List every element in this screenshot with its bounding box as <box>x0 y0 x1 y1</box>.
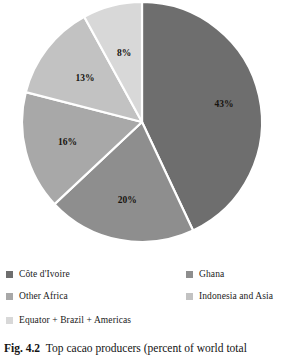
pie-slice-data-label: 13% <box>76 73 95 83</box>
legend-label-ghana: Ghana <box>199 269 224 280</box>
legend-swatch-indonesia-and-asia <box>186 293 193 300</box>
pie-slice-data-label: 43% <box>215 99 234 109</box>
figure-number: Fig. 4.2 <box>4 342 40 354</box>
legend-swatch-ghana <box>186 271 193 278</box>
pie-chart-figure: 43%20%16%13%8% <box>0 0 283 258</box>
legend-row: Côte d'Ivoire Ghana <box>0 264 283 284</box>
legend-swatch-equator-brazil-americas <box>6 317 13 324</box>
legend-label-equator-brazil-americas: Equator + Brazil + Americas <box>19 315 131 326</box>
legend-label-cote-divoire: Côte d'Ivoire <box>19 269 70 280</box>
legend-item-ghana[interactable]: Ghana <box>186 264 224 284</box>
legend-item-indonesia-and-asia[interactable]: Indonesia and Asia <box>186 286 273 306</box>
pie-chart-canvas: 43%20%16%13%8% <box>0 0 283 258</box>
legend-swatch-other-africa <box>6 293 13 300</box>
legend-label-other-africa: Other Africa <box>19 291 68 302</box>
pie-slice-data-label: 8% <box>117 48 131 58</box>
pie-slice-group <box>22 2 262 242</box>
pie-slice-data-label: 20% <box>118 195 137 205</box>
legend-item-equator-brazil-americas[interactable]: Equator + Brazil + Americas <box>6 310 131 330</box>
legend-swatch-cote-divoire <box>6 271 13 278</box>
legend-row: Equator + Brazil + Americas <box>0 310 283 330</box>
figure-caption: Fig. 4.2 Top cacao producers (percent of… <box>4 341 283 360</box>
legend-item-cote-divoire[interactable]: Côte d'Ivoire <box>6 264 70 284</box>
figure-caption-text: Top cacao producers (percent of world to… <box>46 342 247 354</box>
legend-item-other-africa[interactable]: Other Africa <box>6 286 68 306</box>
chart-legend: Côte d'Ivoire Ghana Other Africa Indones… <box>0 262 283 334</box>
pie-slice-data-label: 16% <box>58 137 77 147</box>
legend-row: Other Africa Indonesia and Asia <box>0 286 283 306</box>
legend-label-indonesia-and-asia: Indonesia and Asia <box>199 291 273 302</box>
